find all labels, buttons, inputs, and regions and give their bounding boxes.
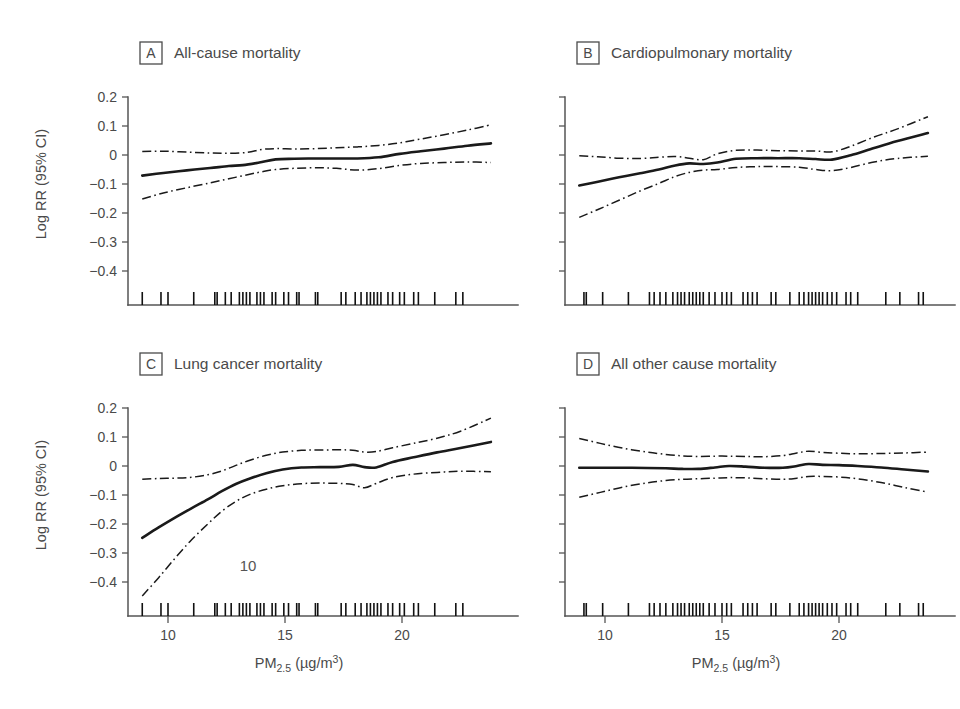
y-axis-tick-label: 0 xyxy=(109,458,117,474)
four-panel-concentration-response-figure: AAll-cause mortality0.20.10−0.1−0.2−0.3−… xyxy=(0,0,960,709)
y-axis-tick-label: −0.3 xyxy=(89,234,117,250)
y-axis-label: Log RR (95% CI) xyxy=(33,440,49,550)
x-axis-label: PM2.5 (µg/m3) xyxy=(255,653,343,674)
y-axis-tick-label: −0.1 xyxy=(89,487,117,503)
x-axis-tick-label: 15 xyxy=(714,627,730,643)
x-axis-tick-label: 20 xyxy=(394,627,410,643)
x-axis-label: PM2.5 (µg/m3) xyxy=(692,653,780,674)
panel-title: Cardiopulmonary mortality xyxy=(611,44,792,61)
y-axis-tick-label: −0.4 xyxy=(89,263,117,279)
panel-title: All-cause mortality xyxy=(174,44,301,61)
panel-tag-letter: C xyxy=(146,356,156,372)
y-axis-tick-label: 0 xyxy=(109,147,117,163)
x-axis-tick-label: 10 xyxy=(160,627,176,643)
y-axis-tick-label: −0.3 xyxy=(89,545,117,561)
panel-title: Lung cancer mortality xyxy=(174,355,322,372)
x-axis-tick-label: 15 xyxy=(277,627,293,643)
in-plot-annotation: 10 xyxy=(240,557,257,574)
y-axis-tick-label: −0.1 xyxy=(89,176,117,192)
y-axis-tick-label: 0.1 xyxy=(98,118,118,134)
y-axis-tick-label: 0.1 xyxy=(98,429,118,445)
figure-background xyxy=(0,0,960,709)
panel-tag-letter: D xyxy=(583,356,593,372)
panel-tag-letter: A xyxy=(146,45,156,61)
y-axis-label: Log RR (95% CI) xyxy=(33,129,49,239)
y-axis-tick-label: −0.2 xyxy=(89,516,117,532)
panel-title: All other cause mortality xyxy=(611,355,777,372)
y-axis-tick-label: 0.2 xyxy=(98,89,118,105)
y-axis-tick-label: 0.2 xyxy=(98,400,118,416)
x-axis-tick-label: 20 xyxy=(831,627,847,643)
x-axis-tick-label: 10 xyxy=(597,627,613,643)
y-axis-tick-label: −0.2 xyxy=(89,205,117,221)
panel-tag-letter: B xyxy=(583,45,592,61)
y-axis-tick-label: −0.4 xyxy=(89,574,117,590)
